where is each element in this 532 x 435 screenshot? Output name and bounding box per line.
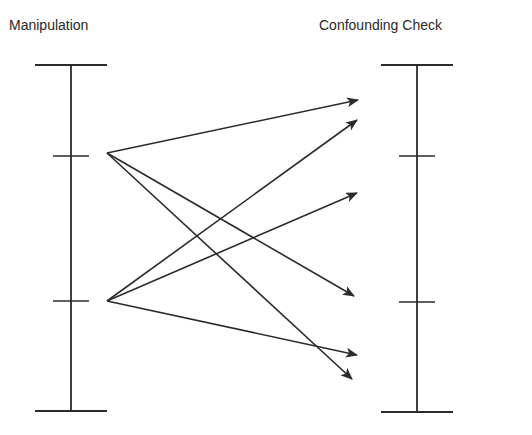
manipulation-axis <box>35 65 107 411</box>
arrow <box>107 100 358 153</box>
arrow <box>107 301 357 355</box>
manipulation-confounding-diagram <box>0 0 532 435</box>
arrow <box>107 153 352 379</box>
confounding-check-axis <box>381 65 453 412</box>
arrow-group <box>107 100 358 379</box>
arrow <box>107 120 357 301</box>
arrow <box>107 193 357 301</box>
